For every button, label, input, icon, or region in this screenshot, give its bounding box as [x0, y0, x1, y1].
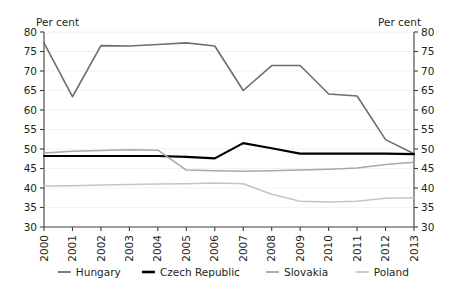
y-axis-right-tick-label: 60	[421, 104, 434, 116]
x-axis-tick-label: 2001	[66, 235, 78, 262]
x-axis-tick-label: 2012	[379, 235, 391, 262]
y-axis-left-tick-label: 30	[24, 221, 37, 233]
y-axis-left-tick-label: 35	[24, 201, 37, 213]
y-axis-right-tick-label: 65	[421, 84, 434, 96]
y-axis-right-tick-label: 55	[421, 123, 434, 135]
chart-canvas: 3035404550556065707580 30354045505560657…	[0, 0, 457, 294]
x-axis-tick-label: 2006	[208, 235, 220, 262]
y-axis-left-tick-label: 55	[24, 123, 37, 135]
y-axis-left-tick-label: 45	[24, 162, 37, 174]
y-axis-left-tick-label: 60	[24, 104, 37, 116]
x-axis-tick-label: 2008	[265, 235, 277, 262]
x-axis-tick-label: 2000	[38, 235, 50, 262]
legend-label-slovakia: Slovakia	[284, 266, 328, 278]
x-axis-tick-label: 2007	[237, 235, 249, 262]
y-axis-left-title: Per cent	[36, 16, 79, 28]
y-axis-right-tick-label: 45	[421, 162, 434, 174]
y-axis-right-tick-label: 30	[421, 221, 434, 233]
x-axis-tick-label: 2010	[322, 235, 334, 262]
y-axis-left-tick-label: 65	[24, 84, 37, 96]
line-chart: 3035404550556065707580 30354045505560657…	[0, 0, 457, 294]
legend-label-hungary: Hungary	[76, 266, 121, 278]
x-axis-tick-label: 2002	[95, 235, 107, 262]
x-axis-tick-label: 2004	[151, 235, 163, 262]
y-axis-left-tick-label: 70	[24, 65, 37, 77]
y-axis-left-tick-label: 75	[24, 45, 37, 57]
y-axis-left-tick-label: 50	[24, 143, 37, 155]
y-axis-right-title: Per cent	[378, 16, 421, 28]
y-axis-left-tick-label: 40	[24, 182, 37, 194]
legend-label-czech-republic: Czech Republic	[160, 266, 240, 278]
y-axis-right-tick-label: 80	[421, 26, 434, 38]
y-axis-right-tick-label: 75	[421, 45, 434, 57]
y-axis-left-tick-label: 80	[24, 26, 37, 38]
legend-label-poland: Poland	[374, 266, 409, 278]
y-axis-right-tick-label: 40	[421, 182, 434, 194]
y-axis-right-tick-label: 35	[421, 201, 434, 213]
x-axis-tick-label: 2003	[123, 235, 135, 262]
x-axis-tick-label: 2013	[408, 235, 420, 262]
y-axis-right-tick-label: 50	[421, 143, 434, 155]
x-axis-tick-label: 2009	[294, 235, 306, 262]
y-axis-right-tick-label: 70	[421, 65, 434, 77]
x-axis-tick-label: 2005	[180, 235, 192, 262]
x-axis-tick-label: 2011	[351, 235, 363, 262]
